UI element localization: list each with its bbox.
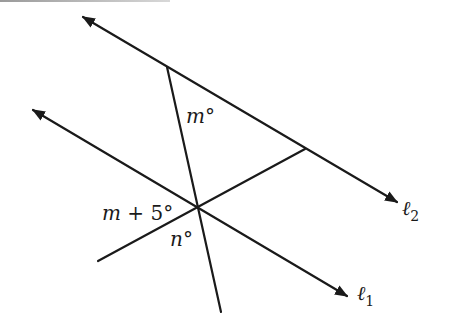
line-label-l1: ℓ1	[357, 281, 374, 309]
line-l2	[83, 17, 397, 202]
line-l1	[33, 110, 347, 296]
line-label-l2: ℓ2	[402, 196, 419, 224]
parallel-lines-diagram: m° m + 5° n° ℓ2 ℓ1	[0, 0, 449, 333]
angle-label-n: n°	[170, 227, 193, 251]
angle-label-m-plus-5: m + 5°	[102, 201, 173, 225]
angle-label-m: m°	[186, 104, 215, 128]
